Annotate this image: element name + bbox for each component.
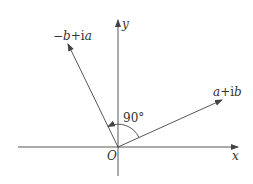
angle-label: 90°	[123, 111, 144, 125]
vector-minus-b-plus-ia	[68, 44, 118, 147]
label-minus-b-plus-ia: −b+ia	[53, 29, 92, 43]
label-a-plus-ib: a+ib	[213, 85, 242, 99]
y-axis-label: y	[121, 17, 129, 31]
complex-plane-diagram: x y O 90° a+ib −b+ia	[0, 0, 253, 184]
origin-label: O	[107, 149, 117, 163]
x-axis-label: x	[232, 149, 239, 163]
